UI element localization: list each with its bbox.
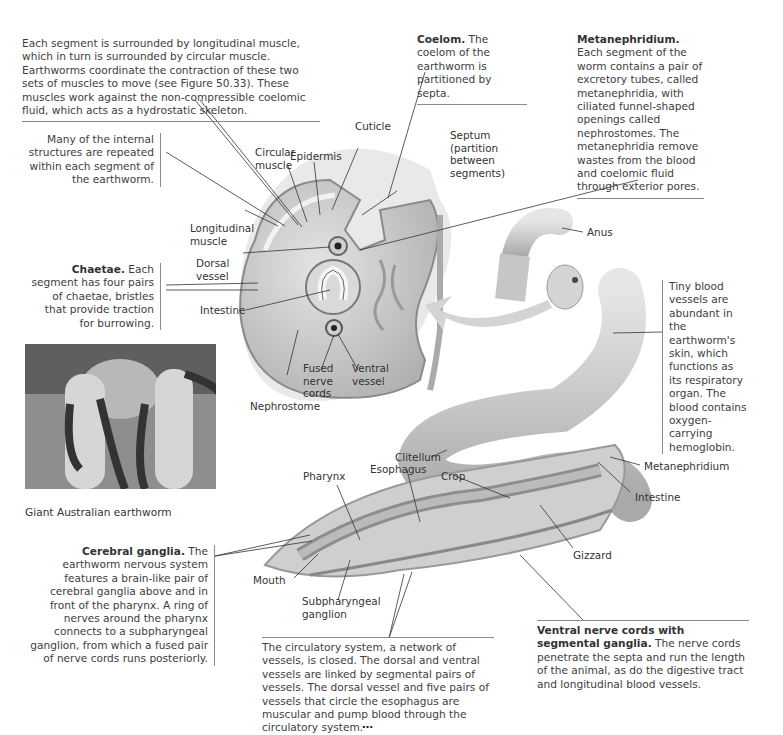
label-nephrostome: Nephrostome — [250, 400, 320, 413]
callout-ventral-nerve-cords: Ventral nerve cords with segmental gangl… — [537, 620, 749, 691]
callout-chaetae-title: Chaetae. — [72, 263, 125, 275]
callout-coelom-title: Coelom. — [417, 33, 465, 45]
callout-metanephridium-body: Each segment of the worm contains a pair… — [577, 46, 702, 192]
label-esophagus: Esophagus — [370, 463, 426, 476]
callout-cerebral-ganglia: Cerebral ganglia. The earthworm nervous … — [25, 545, 215, 666]
callout-cerebral-title: Cerebral ganglia. — [82, 545, 185, 557]
label-septum: Septum (partition between segments) — [450, 129, 505, 179]
label-longitudinal-muscle: Longitudinal muscle — [190, 222, 252, 247]
callout-coelom: Coelom. The coelom of the earthworm is p… — [417, 33, 527, 105]
callout-cerebral-body: The earthworm nervous system features a … — [30, 545, 208, 664]
label-anus: Anus — [587, 226, 613, 239]
callout-metanephridium: Metanephridium. Each segment of the worm… — [577, 33, 704, 199]
label-dorsal-vessel: Dorsal vessel — [196, 257, 236, 282]
earthworm-photo — [25, 344, 216, 489]
curved-arrow — [425, 296, 552, 330]
callout-repeated-structures: Many of the internal structures are repe… — [28, 133, 161, 187]
label-intestine-cross-section: Intestine — [200, 304, 245, 317]
label-circular-muscle: Circular muscle — [255, 146, 305, 171]
callout-chaetae: Chaetae. Each segment has four pairs of … — [30, 263, 161, 330]
callout-muscles: Each segment is surrounded by longitudin… — [22, 37, 320, 122]
callout-circulatory-system: The circulatory system, a network of ves… — [262, 637, 494, 735]
label-crop: Crop — [441, 470, 465, 483]
label-mouth: Mouth — [253, 574, 286, 587]
photo-caption: Giant Australian earthworm — [25, 506, 172, 518]
label-subpharyngeal-ganglion: Subpharyngeal ganglion — [302, 595, 382, 620]
label-gizzard: Gizzard — [573, 549, 612, 562]
footer-fragment: … — [362, 718, 373, 729]
label-cuticle: Cuticle — [355, 120, 391, 133]
label-intestine-longitudinal: Intestine — [635, 491, 680, 504]
callout-metanephridium-title: Metanephridium. — [577, 33, 679, 45]
label-metanephridium: Metanephridium — [644, 460, 729, 473]
label-pharynx: Pharynx — [303, 470, 345, 483]
label-fused-nerve-cords: Fused nerve cords — [303, 362, 337, 400]
worm-tail — [510, 221, 583, 309]
label-clitellum: Clitellum — [395, 451, 441, 464]
cross-section — [240, 149, 451, 401]
label-ventral-vessel: Ventral vessel — [352, 362, 392, 387]
callout-skin-respiration: Tiny blood vessels are abundant in the e… — [662, 280, 749, 454]
